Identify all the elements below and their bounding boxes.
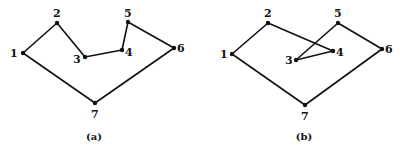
vertex-label: 4 [125,46,133,59]
vertex-2 [266,21,270,25]
vertex-label: 2 [53,7,61,20]
vertex-6 [172,46,176,50]
edge-1-2 [23,23,57,53]
edge-5-6 [338,23,382,49]
vertex-label: 4 [336,46,344,59]
vertex-1 [21,51,25,55]
vertex-label: 6 [385,43,393,56]
vertex-3 [83,55,87,59]
vertex-label: 5 [334,7,342,20]
vertex-5 [126,20,130,24]
vertex-label: 2 [264,7,272,20]
edge-1-2 [232,23,268,54]
vertex-label: 6 [177,42,185,55]
vertex-4 [120,48,124,52]
vertex-2 [55,21,59,25]
vertex-label: 3 [285,54,293,67]
edge-3-4 [85,50,122,57]
figure-b: 1234567(b) [220,7,393,142]
figure-caption: (b) [296,131,312,142]
figure-a: 1234567(a) [10,7,185,142]
vertex-label: 1 [220,48,228,61]
vertex-label: 7 [301,110,309,123]
vertex-7 [303,103,307,107]
vertex-label: 5 [124,7,132,20]
figure-caption: (a) [86,131,102,142]
vertex-4 [331,49,335,53]
vertex-5 [336,21,340,25]
vertex-label: 7 [91,108,99,121]
edge-6-7 [95,48,174,103]
edge-2-3 [57,23,85,57]
graph-diagram: 1234567(a) 1234567(b) [0,0,400,150]
edge-7-1 [23,53,95,103]
edge-5-6 [128,22,174,48]
vertex-label: 1 [10,47,18,60]
vertex-3 [294,58,298,62]
vertex-6 [380,47,384,51]
vertex-7 [93,101,97,105]
edge-7-1 [232,54,305,105]
vertex-label: 3 [73,53,81,66]
vertex-1 [230,52,234,56]
